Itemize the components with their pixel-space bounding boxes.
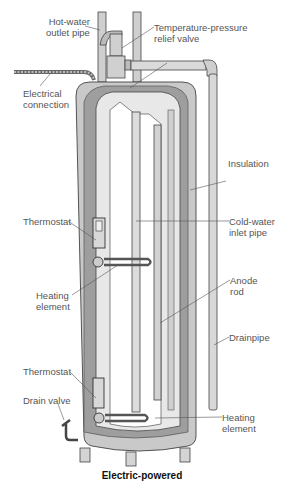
label-line: outlet pipe — [46, 27, 90, 38]
leg — [80, 448, 90, 462]
heating-element-upper-mount — [93, 257, 103, 267]
thermostat-lower — [93, 378, 104, 408]
label-thermostat-upper: Thermostat — [23, 216, 71, 227]
cold-water-inlet-pipe-top — [133, 12, 141, 82]
label-hot-water-outlet-pipe: Hot-water outlet pipe — [46, 16, 90, 38]
relief-valve-body — [110, 34, 122, 56]
label-drain-valve: Drain valve — [23, 395, 71, 406]
leg — [180, 448, 190, 462]
label-insulation: Insulation — [228, 158, 269, 169]
relief-drain-pipe-horizontal — [131, 61, 206, 70]
label-line: element — [36, 301, 70, 312]
label-line: Temperature-pressure — [154, 22, 247, 33]
label-line: Drainpipe — [229, 332, 270, 343]
label-line: element — [222, 423, 256, 434]
label-cold-water-inlet-pipe: Cold-water inlet pipe — [229, 216, 275, 238]
label-line: Electrical — [23, 88, 69, 99]
label-line: Heating — [222, 412, 256, 423]
label-line: Insulation — [228, 158, 269, 169]
label-line: Thermostat — [23, 216, 71, 227]
label-temperature-pressure-relief-valve: Temperature-pressure relief valve — [154, 22, 247, 44]
diagram-caption: Electric-powered — [0, 470, 284, 481]
label-line: rod — [230, 286, 257, 297]
drain-valve — [62, 420, 78, 440]
label-line: connection — [23, 99, 69, 110]
label-electrical-connection: Electrical connection — [23, 88, 69, 110]
label-heating-element-upper: Heating element — [36, 290, 70, 312]
label-thermostat-lower: Thermostat — [23, 366, 71, 377]
electrical-cable — [14, 72, 94, 80]
label-line: Cold-water — [229, 216, 275, 227]
cold-water-inlet-tube — [132, 112, 140, 412]
hot-water-outlet-pipe — [98, 12, 106, 82]
heating-element-lower-mount — [94, 413, 104, 423]
drainpipe — [209, 74, 217, 410]
label-line: Thermostat — [23, 366, 71, 377]
label-line: relief valve — [154, 33, 247, 44]
leg — [126, 452, 136, 466]
label-drainpipe: Drainpipe — [229, 332, 270, 343]
label-line: Drain valve — [23, 395, 71, 406]
label-line: Hot-water — [46, 16, 90, 27]
label-heating-element-lower: Heating element — [222, 412, 256, 434]
label-anode-rod: Anode rod — [230, 275, 257, 297]
label-line: Heating — [36, 290, 70, 301]
anode-rod — [154, 125, 161, 400]
label-line: Anode — [230, 275, 257, 286]
label-line: inlet pipe — [229, 227, 275, 238]
